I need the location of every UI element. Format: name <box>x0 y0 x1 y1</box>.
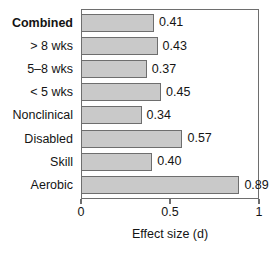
bar <box>81 130 182 148</box>
x-axis-tick-label: 0 <box>78 205 85 219</box>
category-label: < 5 wks <box>0 81 77 104</box>
category-label: Disabled <box>0 127 77 150</box>
bar-value-label: 0.43 <box>163 40 187 53</box>
bar <box>81 153 152 171</box>
bar-value-label: 0.34 <box>147 109 171 122</box>
bar <box>81 106 142 124</box>
x-axis-tick <box>169 199 171 204</box>
bar-rows: 0.410.430.370.450.340.570.400.89 <box>81 11 259 197</box>
bar <box>81 83 161 101</box>
bar <box>81 176 239 194</box>
table-row: 0.41 <box>81 11 259 34</box>
x-axis-tick-label: 1 <box>256 205 263 219</box>
x-axis-tick <box>80 199 82 204</box>
bar <box>81 60 147 78</box>
bar-value-label: 0.89 <box>244 179 268 192</box>
table-row: 0.40 <box>81 150 259 173</box>
effect-size-bar-chart: Combined> 8 wks5–8 wks< 5 wksNonclinical… <box>0 0 278 255</box>
table-row: 0.45 <box>81 81 259 104</box>
bar-value-label: 0.37 <box>152 63 176 76</box>
table-row: 0.57 <box>81 127 259 150</box>
category-label: 5–8 wks <box>0 57 77 80</box>
bar-value-label: 0.57 <box>187 132 211 145</box>
category-label: Nonclinical <box>0 104 77 127</box>
table-row: 0.37 <box>81 57 259 80</box>
category-label: > 8 wks <box>0 34 77 57</box>
table-row: 0.43 <box>81 34 259 57</box>
category-label: Skill <box>0 150 77 173</box>
x-axis-title: Effect size (d) <box>81 227 259 241</box>
bar-value-label: 0.41 <box>159 16 183 29</box>
bar-value-label: 0.40 <box>157 155 181 168</box>
x-axis-tick-label: 0.5 <box>161 205 178 219</box>
bar <box>81 14 154 32</box>
table-row: 0.89 <box>81 173 259 196</box>
x-axis-tick <box>258 199 260 204</box>
bar-value-label: 0.45 <box>166 86 190 99</box>
bar <box>81 37 158 55</box>
category-label: Combined <box>0 11 77 34</box>
category-label: Aerobic <box>0 173 77 196</box>
table-row: 0.34 <box>81 104 259 127</box>
category-axis-labels: Combined> 8 wks5–8 wks< 5 wksNonclinical… <box>0 11 77 197</box>
